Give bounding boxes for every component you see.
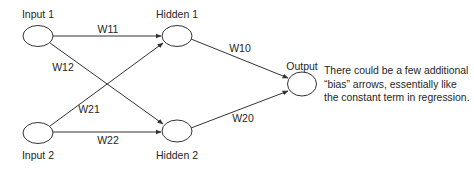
node-input1 — [23, 26, 53, 47]
node-label-hidden1: Hidden 1 — [156, 8, 198, 20]
annotation-line-3: the constant term in regression. — [324, 91, 474, 105]
annotation-line-2: “bias” arrows, essentially like — [324, 78, 474, 92]
edge-weight-label: W20 — [232, 112, 254, 124]
annotation-line-1: There could be a few additional — [324, 64, 474, 78]
node-label-hidden2: Hidden 2 — [156, 149, 198, 161]
node-label-output: Output — [286, 60, 318, 72]
node-label-input2: Input 2 — [22, 149, 54, 161]
edge-weight-label: W11 — [98, 23, 119, 35]
node-output — [288, 72, 317, 96]
edge-weight-label: W10 — [229, 42, 251, 54]
node-hidden1 — [162, 26, 192, 47]
node-input2 — [23, 123, 53, 144]
edge-weight-label: W22 — [97, 134, 119, 146]
edge-weight-label: W12 — [52, 61, 74, 73]
node-label-input1: Input 1 — [22, 8, 54, 20]
nodes-group: Input 1Input 2Hidden 1Hidden 2Output — [22, 8, 318, 161]
node-hidden2 — [162, 120, 192, 142]
edge-weight-label: W21 — [78, 103, 100, 115]
bias-annotation: There could be a few additional “bias” a… — [324, 64, 474, 105]
